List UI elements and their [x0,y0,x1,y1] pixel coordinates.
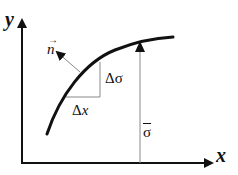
x-axis-label: x [216,145,226,165]
y-axis-label: y [5,9,14,29]
normal-vector-arrow [57,52,80,72]
delta-sigma-label: Δσ [105,71,123,86]
delta-x-label: Δx [72,103,88,118]
normal-vector-label: → n [47,42,55,57]
vector-arrow-icon: → [48,35,58,45]
diagram-canvas [0,0,238,175]
sigma-bar-label: σ [143,125,151,140]
